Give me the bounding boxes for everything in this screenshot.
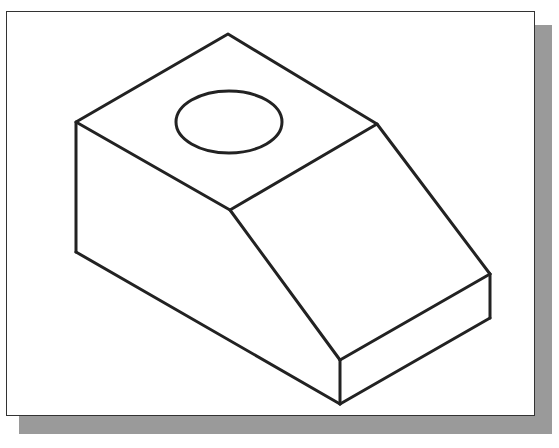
step-bottom-edge <box>340 318 490 404</box>
slope-front-edge <box>230 210 340 360</box>
slope-right-edge <box>377 124 490 274</box>
step-top-edge <box>340 274 490 360</box>
hole-ellipse <box>176 91 282 153</box>
bottom-left-edge <box>76 252 340 404</box>
isometric-block-drawing <box>0 0 559 448</box>
top-face <box>76 34 377 210</box>
